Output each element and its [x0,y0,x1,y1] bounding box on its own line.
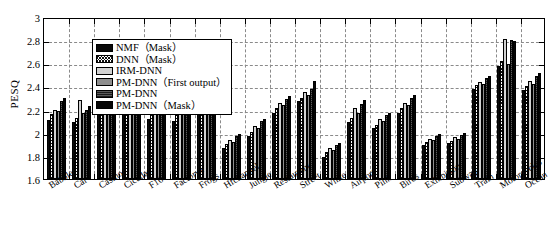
y-tick-mark [44,112,49,113]
x-tick-mark [395,19,396,24]
legend-swatch-icon [96,67,113,75]
x-tick-mark [496,19,497,24]
x-tick-mark [94,19,95,24]
x-tick-mark [370,19,371,24]
bar-group [269,19,294,179]
y-axis-tick-label: 2 [35,129,40,140]
bar-group [469,19,494,179]
x-tick-mark [320,19,321,24]
y-axis-tick-label: 2.2 [27,106,40,117]
bar [513,41,516,179]
y-tick-mark [44,158,49,159]
x-tick-mark [496,174,497,179]
legend-label: PM-DNN [116,88,157,100]
x-axis-labels: BabbleCarCasinoCicadasF16Factory1FrogsHf… [43,182,545,234]
legend-swatch-icon [96,101,113,109]
bar [288,96,291,179]
bar-group [344,19,369,179]
x-tick-mark [295,19,296,24]
y-tick-mark [539,135,544,136]
legend-item: PM-DNN（Mask） [96,100,226,112]
y-tick-mark [539,88,544,89]
x-tick-mark [345,19,346,24]
y-tick-mark [44,88,49,89]
legend-label: NMF（Mask） [116,42,182,54]
legend-label: PM-DNN（First output） [116,77,226,89]
legend-item: PM-DNN（First output） [96,77,226,89]
legend-item: DNN（Mask） [96,54,226,66]
y-axis-tick-label: 1.6 [27,176,40,187]
bar [388,113,391,179]
bar-group [294,19,319,179]
bar-group [244,19,269,179]
legend-item: NMF（Mask） [96,42,226,54]
x-tick-mark [170,174,171,179]
y-tick-mark [44,135,49,136]
x-tick-mark [119,19,120,24]
bar [188,104,191,179]
legend-item: PM-DNN [96,88,226,100]
bar [413,95,416,179]
x-tick-mark [170,19,171,24]
y-axis-tick-label: 3 [35,14,40,25]
y-tick-mark [44,65,49,66]
bar-group [419,19,444,179]
bar-group [319,19,344,179]
y-tick-mark [44,42,49,43]
bar-group [369,19,394,179]
x-tick-mark [270,19,271,24]
x-tick-mark [245,19,246,24]
bar [488,76,491,179]
legend-label: IRM-DNN [116,65,162,77]
bar-group [444,19,469,179]
bar [363,100,366,179]
chart-container: PESQ NMF（Mask） DNN（Mask） IRM-DNN PM-DNN（… [0,0,555,234]
y-axis-label: PESQ [8,64,20,124]
legend-swatch-icon [96,44,113,52]
x-tick-mark [220,19,221,24]
legend-label: DNN（Mask） [116,54,182,66]
y-axis-tick-label: 2.6 [27,60,40,71]
y-tick-mark [539,42,544,43]
legend-swatch-icon [96,90,113,98]
y-tick-mark [539,112,544,113]
x-tick-mark [421,19,422,24]
x-tick-mark [195,19,196,24]
legend-swatch-icon [96,78,113,86]
x-tick-mark [94,174,95,179]
x-tick-mark [446,19,447,24]
legend-swatch-icon [96,55,113,63]
bar-group [394,19,419,179]
y-axis-tick-label: 2.4 [27,83,40,94]
legend-label: PM-DNN（Mask） [116,100,201,112]
legend-item: IRM-DNN [96,65,226,77]
bar [313,81,316,179]
bar [63,98,66,179]
x-tick-mark [144,19,145,24]
y-tick-mark [539,65,544,66]
plot-area: NMF（Mask） DNN（Mask） IRM-DNN PM-DNN（First… [43,18,545,180]
x-tick-mark [471,19,472,24]
x-tick-mark [69,19,70,24]
x-tick-mark [395,174,396,179]
bar-group [494,19,519,179]
y-axis-tick-label: 1.8 [27,153,40,164]
y-axis-tick-label: 2.8 [27,37,40,48]
bar-group [69,19,94,179]
bar [88,106,91,179]
x-tick-mark [521,19,522,24]
chart-legend: NMF（Mask） DNN（Mask） IRM-DNN PM-DNN（First… [92,39,232,115]
